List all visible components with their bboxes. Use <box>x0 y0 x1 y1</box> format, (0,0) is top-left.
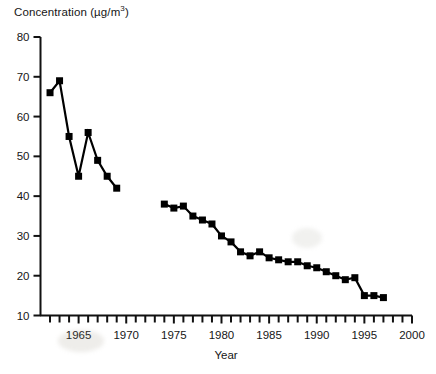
data-point-marker <box>208 220 215 227</box>
data-point-marker <box>266 254 273 261</box>
data-point-marker <box>189 213 196 220</box>
x-axis-tick-label: 1990 <box>304 329 330 341</box>
y-axis-tick-labels: 1020304050607080 <box>17 31 30 322</box>
data-point-marker <box>370 292 377 299</box>
data-point-marker <box>342 276 349 283</box>
data-point-marker <box>247 252 254 259</box>
data-series-markers <box>47 77 387 301</box>
data-point-marker <box>170 205 177 212</box>
data-point-marker <box>228 238 235 245</box>
data-point-marker <box>85 129 92 136</box>
chart-plot-area: 1020304050607080 19651970197519801985199… <box>0 0 436 374</box>
axis-lines <box>40 37 412 316</box>
data-point-marker <box>304 262 311 269</box>
data-point-marker <box>199 217 206 224</box>
data-point-marker <box>285 258 292 265</box>
x-axis-tick-label: 2000 <box>399 329 425 341</box>
data-point-marker <box>361 292 368 299</box>
chart-figure: Concentration (µg/m3) 1020304050607080 1… <box>0 0 436 374</box>
x-axis-ticks <box>50 316 412 324</box>
data-point-marker <box>161 201 168 208</box>
data-point-marker <box>256 248 263 255</box>
x-axis-tick-label: 1980 <box>209 329 235 341</box>
data-point-marker <box>113 185 120 192</box>
data-point-marker <box>237 248 244 255</box>
x-axis-tick-label: 1965 <box>66 329 92 341</box>
data-point-marker <box>47 89 54 96</box>
data-point-marker <box>294 258 301 265</box>
x-axis-tick-label: 1985 <box>256 329 282 341</box>
x-axis-tick-label: 1975 <box>161 329 187 341</box>
data-point-marker <box>66 133 73 140</box>
data-point-marker <box>332 272 339 279</box>
y-axis-tick-label: 40 <box>17 190 30 202</box>
data-point-marker <box>323 268 330 275</box>
data-point-marker <box>104 173 111 180</box>
y-axis-tick-label: 70 <box>17 71 30 83</box>
y-axis-tick-label: 20 <box>17 270 30 282</box>
series-line <box>164 204 383 298</box>
y-axis-ticks <box>34 37 41 316</box>
y-axis-tick-label: 30 <box>17 230 30 242</box>
data-point-marker <box>75 173 82 180</box>
y-axis-tick-label: 10 <box>17 310 30 322</box>
x-axis-tick-label: 1970 <box>113 329 139 341</box>
data-point-marker <box>313 264 320 271</box>
data-point-marker <box>180 203 187 210</box>
data-point-marker <box>218 232 225 239</box>
x-axis-tick-label: 1995 <box>352 329 378 341</box>
data-point-marker <box>351 274 358 281</box>
data-point-marker <box>56 77 63 84</box>
data-point-marker <box>94 157 101 164</box>
x-axis-title: Year <box>214 349 237 361</box>
y-axis-tick-label: 80 <box>17 31 30 43</box>
series-line <box>50 81 117 188</box>
x-axis-tick-labels: 19651970197519801985199019952000 <box>66 329 425 341</box>
data-series-lines <box>50 81 383 298</box>
y-axis-tick-label: 50 <box>17 150 30 162</box>
y-axis-tick-label: 60 <box>17 111 30 123</box>
data-point-marker <box>275 256 282 263</box>
data-point-marker <box>380 294 387 301</box>
